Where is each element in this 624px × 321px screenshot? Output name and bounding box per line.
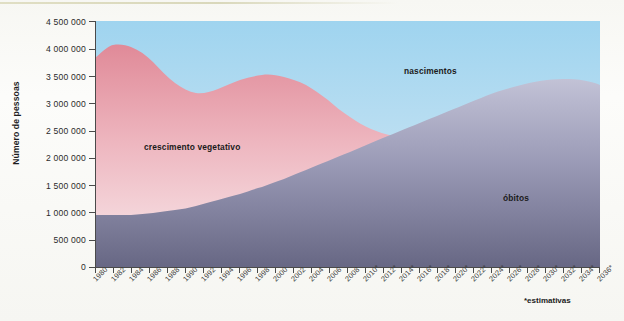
footnote-estimativas: *estimativas [524, 296, 571, 305]
y-tick-label-500k: 500 000 [8, 235, 86, 245]
y-tick-label-0: 0 [8, 262, 86, 272]
y-axis-ticks [89, 22, 95, 268]
chart-figure: Número de pessoas [0, 0, 624, 321]
y-tick-label-4m: 4 000 000 [8, 44, 86, 54]
y-tick-label-3-5m: 3 500 000 [8, 72, 86, 82]
series-label-crescimento-vegetativo: crescimento vegetativo [144, 142, 240, 152]
y-tick-label-2-5m: 2 500 000 [8, 126, 86, 136]
y-tick-label-1-5m: 1 500 000 [8, 181, 86, 191]
series-label-obitos: óbitos [503, 193, 529, 203]
series-label-nascimentos: nascimentos [404, 66, 457, 76]
y-tick-label-2m: 2 000 000 [8, 153, 86, 163]
y-tick-label-1m: 1 000 000 [8, 208, 86, 218]
y-tick-label-3m: 3 000 000 [8, 99, 86, 109]
y-tick-label-4-5m: 4 500 000 [8, 17, 86, 27]
